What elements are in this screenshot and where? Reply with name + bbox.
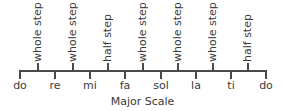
step-tick [142, 63, 144, 71]
note-tick [54, 71, 56, 79]
step-label: whole step [172, 2, 184, 62]
step-tick [177, 63, 179, 71]
step-label: half step [242, 14, 254, 62]
step-tick [37, 63, 39, 71]
step-tick [107, 63, 109, 71]
note-tick [89, 71, 91, 79]
note-tick [19, 71, 21, 79]
step-tick [212, 63, 214, 71]
note-label-fa: fa [120, 80, 131, 92]
note-label-do-high: do [259, 80, 273, 92]
note-label-sol: sol [153, 80, 169, 92]
note-tick [160, 71, 162, 79]
step-label: whole step [67, 2, 79, 62]
note-label-re: re [49, 80, 60, 92]
major-scale-diagram: do re mi fa sol la ti do whole step whol… [0, 0, 285, 111]
step-label: half step [102, 14, 114, 62]
step-label: whole step [137, 2, 149, 62]
step-label: whole step [207, 2, 219, 62]
step-tick [72, 63, 74, 71]
step-label: whole step [32, 2, 44, 62]
note-label-mi: mi [83, 80, 97, 92]
note-label-do: do [13, 80, 27, 92]
note-tick [124, 71, 126, 79]
note-tick [265, 71, 267, 79]
note-tick [195, 71, 197, 79]
note-tick [230, 71, 232, 79]
step-tick [247, 63, 249, 71]
diagram-caption: Major Scale [0, 96, 285, 108]
note-label-la: la [191, 80, 201, 92]
note-label-ti: ti [227, 80, 234, 92]
